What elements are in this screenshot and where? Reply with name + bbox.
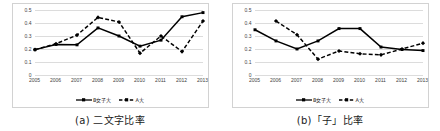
data-point-marker [336, 49, 340, 53]
x-tick-label: 2013 [197, 78, 208, 83]
chart-b: 00.10.20.30.40.5 20052006200720082009201… [232, 3, 429, 108]
figure-panel-b: 00.10.20.30.40.5 20052006200720082009201… [220, 0, 440, 131]
y-tick-label: 0.3 [245, 34, 252, 39]
legend-entry[interactable]: A大 [339, 97, 364, 103]
data-point-marker [420, 41, 424, 45]
x-tick-label: 2012 [396, 78, 407, 83]
legend-swatch-icon [339, 97, 355, 103]
data-point-marker [358, 27, 361, 30]
x-tick-label: 2006 [270, 78, 281, 83]
x-tick-label: 2010 [134, 78, 145, 83]
x-tick-label: 2008 [92, 78, 103, 83]
data-point-marker [295, 48, 298, 51]
legend-label: B女子大 [93, 98, 111, 103]
data-point-marker [379, 46, 382, 49]
legend-swatch-icon [296, 97, 312, 103]
data-point-marker [201, 11, 204, 14]
y-tick-label: 0.1 [245, 60, 252, 65]
legend-swatch-icon [119, 97, 135, 103]
legend-entry[interactable]: A大 [119, 97, 144, 103]
y-tick-label: 0.1 [25, 60, 32, 65]
plot-area-a: 00.10.20.30.40.5 20052006200720082009201… [35, 10, 203, 75]
series-line-B女子大 [35, 13, 203, 50]
legend-entry[interactable]: B女子大 [76, 97, 111, 103]
series-lines-a [35, 10, 203, 75]
data-point-marker [378, 53, 382, 57]
data-point-marker [159, 39, 162, 42]
figure-panel-a: 00.10.20.30.40.5 20052006200720082009201… [0, 0, 220, 131]
x-tick-label: 2011 [375, 78, 386, 83]
x-tick-label: 2007 [291, 78, 302, 83]
data-point-marker [253, 28, 256, 31]
y-tick-label: 0.3 [25, 34, 32, 39]
x-tick-label: 2006 [50, 78, 61, 83]
x-tick-label: 2005 [249, 78, 260, 83]
legend-label: A大 [136, 98, 144, 103]
data-point-marker [96, 26, 99, 29]
series-line-B女子大 [255, 29, 423, 51]
legend-a: B女子大A大 [13, 97, 208, 103]
x-tick-label: 2011 [155, 78, 166, 83]
data-point-marker [316, 39, 319, 42]
gridline [255, 75, 423, 76]
legend-b: B女子大A大 [233, 97, 428, 103]
y-tick-label: 0.4 [25, 21, 32, 26]
data-point-marker [75, 43, 78, 46]
data-point-marker [357, 52, 361, 56]
chart-a: 00.10.20.30.40.5 20052006200720082009201… [12, 3, 209, 108]
y-tick-label: 0.4 [245, 21, 252, 26]
data-point-marker [421, 49, 424, 52]
x-tick-label: 2005 [29, 78, 40, 83]
data-point-marker [138, 45, 141, 48]
y-tick-label: 0.5 [245, 8, 252, 13]
caption-b: (b)「子」比率 [297, 112, 364, 127]
x-tick-label: 2009 [333, 78, 344, 83]
series-line-A大 [276, 21, 423, 59]
x-tick-label: 2012 [176, 78, 187, 83]
legend-label: A大 [356, 98, 364, 103]
x-tick-label: 2008 [312, 78, 323, 83]
series-lines-b [255, 10, 423, 75]
caption-a: (a) 二文字比率 [75, 112, 145, 127]
gridline [35, 75, 203, 76]
data-point-marker [180, 15, 183, 18]
x-tick-label: 2009 [113, 78, 124, 83]
x-tick-label: 2013 [417, 78, 428, 83]
plot-area-b: 00.10.20.30.40.5 20052006200720082009201… [255, 10, 423, 75]
data-point-marker [274, 39, 277, 42]
data-point-marker [117, 35, 120, 38]
x-tick-label: 2010 [354, 78, 365, 83]
legend-entry[interactable]: B女子大 [296, 97, 331, 103]
y-tick-label: 0.2 [245, 47, 252, 52]
y-tick-label: 0.5 [25, 8, 32, 13]
figure-row: 00.10.20.30.40.5 20052006200720082009201… [0, 0, 440, 131]
legend-label: B女子大 [313, 98, 331, 103]
x-tick-label: 2007 [71, 78, 82, 83]
data-point-marker [337, 27, 340, 30]
y-tick-label: 0.2 [25, 47, 32, 52]
legend-swatch-icon [76, 97, 92, 103]
